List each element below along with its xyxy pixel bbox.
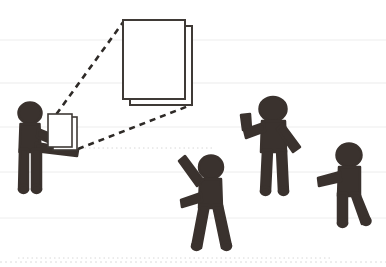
audience-right-back-foot [338, 219, 347, 227]
audience-tall-left-foot [261, 187, 270, 195]
held-document [48, 114, 77, 150]
scene-illustration [0, 0, 386, 267]
audience-front-head [199, 156, 223, 179]
presenter-left-foot [19, 185, 28, 193]
audience-tall-head [260, 97, 287, 121]
audience-tall-right-leg [277, 150, 288, 192]
audience-front-back-foot [192, 242, 201, 250]
audience-tall-right-foot [279, 187, 288, 195]
audience-tall-raised-arm-forearm [241, 114, 251, 130]
presenter-right-foot [32, 185, 41, 193]
audience-right-head [337, 144, 362, 167]
audience-front-torso [199, 179, 222, 208]
audience-front-front-foot [222, 242, 231, 250]
presenter-head [19, 103, 42, 124]
audience-right-front-foot [362, 217, 371, 225]
enlarged-document [123, 20, 192, 105]
audience-tall-left-leg [261, 150, 272, 192]
illustration-canvas [0, 0, 386, 267]
enlarged-document-front-sheet [123, 20, 185, 99]
held-document-front-sheet [48, 114, 72, 147]
